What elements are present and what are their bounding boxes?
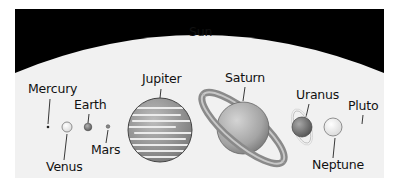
mercury-label: Mercury — [28, 83, 77, 96]
neptune-icon — [324, 118, 342, 136]
jupiter-icon — [127, 98, 193, 162]
mercury-icon — [47, 126, 50, 129]
saturn-label: Saturn — [225, 72, 265, 85]
uranus-label: Uranus — [296, 89, 339, 102]
venus-icon — [62, 122, 72, 132]
mars-icon — [106, 125, 110, 129]
earth-icon — [84, 123, 92, 131]
sun-label: Sun — [189, 26, 212, 39]
venus-label: Venus — [46, 161, 83, 174]
jupiter-label: Jupiter — [142, 73, 181, 86]
mars-label: Mars — [91, 144, 120, 157]
solar-system-diagram: Sun Mercury Venus Earth Mars Jupiter Sat… — [15, 9, 384, 178]
earth-label: Earth — [74, 99, 107, 112]
neptune-label: Neptune — [312, 159, 364, 172]
pluto-label: Pluto — [348, 100, 378, 113]
